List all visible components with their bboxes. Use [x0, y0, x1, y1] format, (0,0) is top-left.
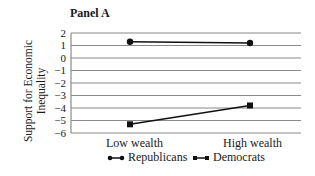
- square-line-marker-icon: [192, 154, 210, 162]
- legend-label: Democrats: [213, 150, 265, 165]
- series-democrats: [127, 103, 253, 128]
- legend-democrats: Democrats: [192, 150, 265, 165]
- x-tick-low-wealth: Low wealth: [106, 136, 163, 151]
- circle-line-marker-icon: [107, 154, 125, 162]
- x-tick-high-wealth: High wealth: [223, 136, 282, 151]
- legend-republicans: Republicans: [107, 150, 187, 165]
- legend-label: Republicans: [128, 150, 187, 165]
